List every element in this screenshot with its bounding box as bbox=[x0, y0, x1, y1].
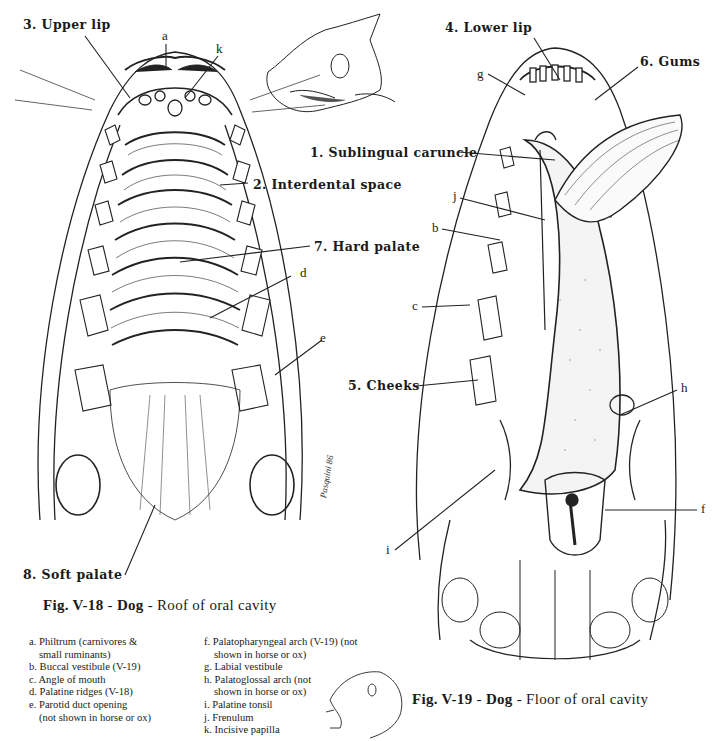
legend-item-i: i. Palatine tonsil bbox=[204, 699, 357, 712]
roof-of-oral-cavity-drawing bbox=[15, 52, 325, 520]
caption-separator: - bbox=[144, 597, 157, 613]
caption-separator: - bbox=[513, 691, 526, 707]
caption-animal: Dog bbox=[117, 597, 144, 613]
caption-description: Floor of oral cavity bbox=[526, 691, 648, 707]
label-cheeks: 5. Cheeks bbox=[348, 378, 420, 393]
label-soft-palate: 8. Soft palate bbox=[23, 567, 122, 582]
caption-animal: Dog bbox=[486, 691, 513, 707]
floor-of-oral-cavity-drawing bbox=[416, 48, 681, 660]
legend-item-d: d. Palatine ridges (V-18) bbox=[29, 686, 151, 699]
dog-head-inset-top bbox=[267, 14, 395, 112]
label-i: i bbox=[386, 542, 390, 558]
label-a: a bbox=[162, 28, 168, 44]
label-upper-lip: 3. Upper lip bbox=[23, 17, 111, 32]
label-g: g bbox=[477, 66, 484, 82]
label-j: j bbox=[453, 188, 457, 204]
legend-item-f-cont: shown in horse or ox) bbox=[204, 649, 357, 662]
legend-item-g: g. Labial vestibule bbox=[204, 661, 357, 674]
caption-separator: - bbox=[472, 691, 485, 707]
anatomy-illustrations bbox=[0, 0, 718, 741]
legend-item-e: e. Parotid duct opening bbox=[29, 699, 151, 712]
caption-separator: - bbox=[103, 597, 116, 613]
label-b: b bbox=[432, 220, 439, 236]
label-k: k bbox=[216, 41, 223, 57]
label-gums: 6. Gums bbox=[640, 54, 700, 69]
legend-item-f: f. Palatopharyngeal arch (V-19) (not bbox=[204, 636, 357, 649]
legend-item-c: c. Angle of mouth bbox=[29, 674, 151, 687]
legend-item-k: k. Incisive papilla bbox=[204, 724, 357, 737]
label-h: h bbox=[681, 380, 688, 396]
legend-item-j: j. Frenulum bbox=[204, 712, 357, 725]
legend-item-a-cont: small ruminants) bbox=[29, 649, 151, 662]
legend-item-e-cont: (not shown in horse or ox) bbox=[29, 712, 151, 725]
label-lower-lip: 4. Lower lip bbox=[445, 20, 532, 35]
label-hard-palate: 7. Hard palate bbox=[314, 239, 420, 254]
caption-description: Roof of oral cavity bbox=[157, 597, 276, 613]
legend-left-column: a. Philtrum (carnivores & small ruminant… bbox=[29, 636, 151, 724]
label-c: c bbox=[412, 298, 418, 314]
legend-item-b: b. Buccal vestibule (V-19) bbox=[29, 661, 151, 674]
caption-fig-v19: Fig. V-19 - Dog - Floor of oral cavity bbox=[412, 691, 648, 708]
legend-item-h-cont: shown in horse or ox) bbox=[204, 686, 357, 699]
caption-fig-v18: Fig. V-18 - Dog - Roof of oral cavity bbox=[43, 597, 276, 614]
legend-item-a: a. Philtrum (carnivores & bbox=[29, 636, 151, 649]
legend-item-h: h. Palatoglossal arch (not bbox=[204, 674, 357, 687]
label-d: d bbox=[300, 265, 307, 281]
label-f: f bbox=[701, 501, 705, 517]
caption-fig-number: Fig. V-18 bbox=[43, 597, 103, 613]
label-sublingual-caruncle: 1. Sublingual caruncle bbox=[310, 145, 477, 160]
label-e: e bbox=[320, 330, 326, 346]
caption-fig-number: Fig. V-19 bbox=[412, 691, 472, 707]
legend-right-column: f. Palatopharyngeal arch (V-19) (not sho… bbox=[204, 636, 357, 737]
label-interdental-space: 2. Interdental space bbox=[253, 177, 402, 192]
